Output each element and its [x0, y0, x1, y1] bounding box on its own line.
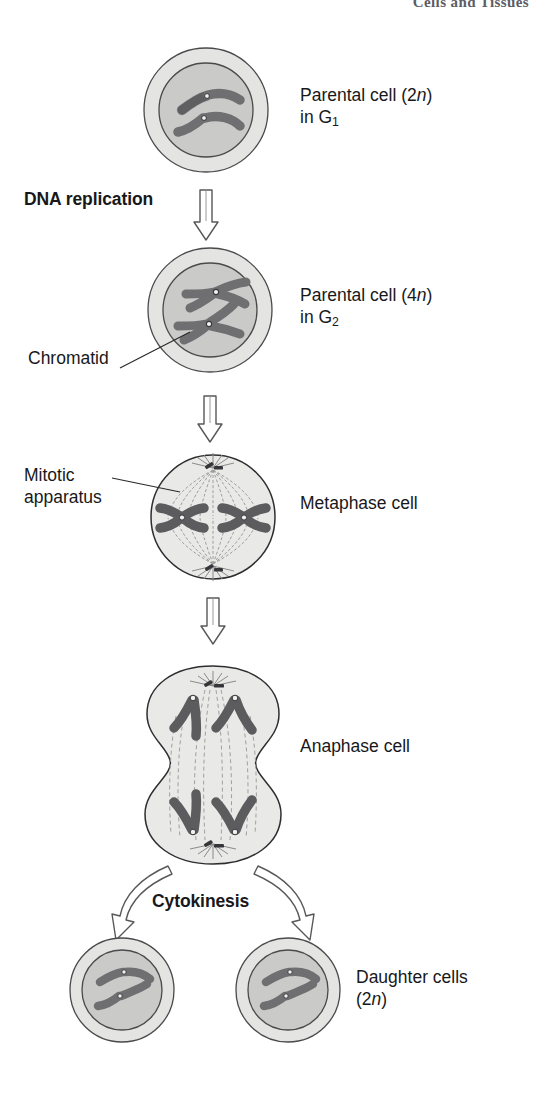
mitosis-diagram [0, 0, 547, 1094]
daughter-left-nucleus [82, 950, 162, 1030]
arrow-to-metaphase [198, 396, 222, 442]
label-anaphase-cell: Anaphase cell [300, 735, 410, 757]
stage-daughter-cell-left [70, 938, 174, 1042]
g2-centromere-1 [213, 289, 218, 294]
stage-daughter-cell-right [236, 938, 340, 1042]
stage-anaphase-cell [145, 666, 281, 864]
stage-metaphase-cell [112, 453, 275, 581]
stage-g2-cell [120, 248, 272, 372]
metaphase-cell-membrane [151, 455, 275, 579]
daughter-right-nucleus [248, 950, 328, 1030]
g1-nucleus [159, 63, 253, 157]
metaphase-centromere-right [241, 515, 246, 520]
label-daughter-cells: Daughter cells(2n) [356, 966, 468, 1010]
arrow-to-anaphase [201, 598, 225, 644]
arrow-dna-replication [194, 190, 218, 240]
g2-centromere-2 [206, 321, 211, 326]
g1-centromere-2 [202, 116, 207, 121]
arrow-cytokinesis-right [254, 866, 314, 940]
label-parental-g2: Parental cell (4n)in G2 [300, 284, 432, 333]
figure-page: Cells and Tissues [0, 0, 547, 1094]
stage-g1-cell [144, 48, 268, 172]
label-cytokinesis: Cytokinesis [152, 890, 249, 912]
g1-centromere-1 [205, 94, 210, 99]
g2-nucleus [163, 263, 257, 357]
metaphase-centromere-left [179, 515, 184, 520]
label-parental-g1: Parental cell (2n)in G1 [300, 84, 432, 133]
label-metaphase-cell: Metaphase cell [300, 492, 418, 514]
label-chromatid: Chromatid [28, 347, 109, 369]
label-mitotic-apparatus: Mitoticapparatus [24, 464, 102, 508]
label-dna-replication: DNA replication [24, 188, 153, 210]
anaphase-cell-membrane [145, 666, 281, 864]
